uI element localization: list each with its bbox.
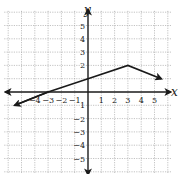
- svg-text:2: 2: [80, 61, 85, 70]
- svg-text:3: 3: [80, 48, 85, 57]
- y-axis-label: y: [83, 3, 91, 17]
- svg-text:2: 2: [112, 96, 117, 105]
- x-axis-label: x: [171, 85, 178, 99]
- svg-text:−2: −2: [73, 115, 85, 124]
- svg-text:−3: −3: [42, 96, 54, 105]
- svg-text:−5: −5: [73, 155, 85, 164]
- svg-text:3: 3: [125, 96, 130, 105]
- svg-text:4: 4: [80, 35, 85, 44]
- svg-text:5: 5: [80, 22, 85, 31]
- svg-text:1: 1: [99, 96, 104, 105]
- svg-text:4: 4: [139, 96, 144, 105]
- svg-text:−3: −3: [73, 128, 85, 137]
- svg-text:−4: −4: [73, 141, 85, 150]
- svg-text:−2: −2: [56, 96, 68, 105]
- svg-text:5: 5: [152, 96, 157, 105]
- axes: [6, 10, 171, 174]
- svg-text:−1: −1: [69, 96, 81, 105]
- coordinate-plane: −4−3−2−1123455432−2−3−4−51 x y: [0, 0, 179, 174]
- svg-text:1: 1: [80, 101, 85, 110]
